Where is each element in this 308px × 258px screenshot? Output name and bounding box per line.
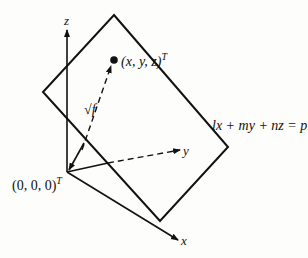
y-axis-label: y (181, 143, 189, 158)
z-axis-label: z (63, 13, 69, 28)
plane-diagram: z y x (x, y, z)T (0, 0, 0)T √f lx + my +… (0, 0, 308, 258)
point-label: (x, y, z)T (121, 51, 168, 70)
y-axis-dashed (108, 150, 180, 163)
x-axis (67, 172, 178, 240)
origin-arrow (69, 143, 84, 170)
diagram-canvas: z y x (x, y, z)T (0, 0, 0)T √f lx + my +… (0, 0, 308, 258)
x-axis-label: x (180, 233, 187, 248)
y-axis-solid (67, 163, 108, 172)
plane-shape (43, 15, 228, 221)
point-marker (110, 56, 118, 64)
origin-label: (0, 0, 0)T (12, 175, 63, 194)
plane-equation-label: lx + my + nz = p (212, 118, 307, 133)
